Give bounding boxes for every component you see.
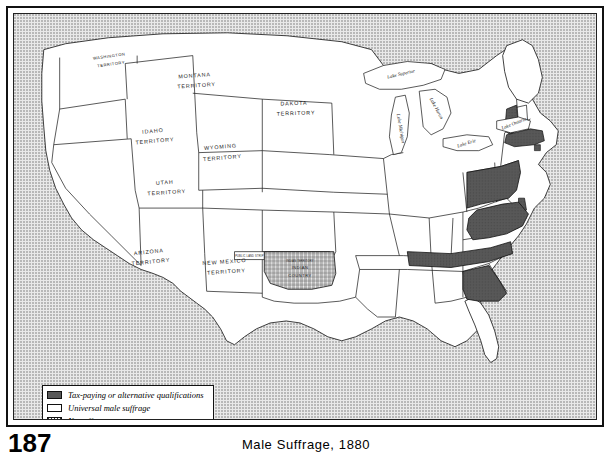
united-states-map: WASHINGTON TERRITORY MONTANA TERRITORY I… — [14, 14, 596, 419]
map-frame: WASHINGTON TERRITORY MONTANA TERRITORY I… — [6, 6, 604, 427]
label-public-land-strip: PUBLIC LAND STRIP — [235, 254, 264, 258]
map-legend: Tax-paying or alternative qualifications… — [42, 385, 214, 420]
figure-title: Male Suffrage, 1880 — [0, 437, 612, 452]
legend-label-no-suffrage: No suffrage — [68, 416, 108, 420]
label-indian-territory-strip: INDIAN TERRITORY — [286, 259, 313, 263]
label-indian-country-line1: INDIAN — [292, 265, 309, 270]
state-georgia — [463, 266, 507, 302]
label-indian-country-line2: COUNTRY — [288, 273, 311, 278]
label-dakota-territory-line1: DAKOTA — [280, 100, 307, 107]
legend-item-universal: Universal male suffrage — [47, 402, 209, 414]
legend-label-tax-paying: Tax-paying or alternative qualifications — [68, 390, 203, 400]
label-utah-territory-line1: UTAH — [156, 179, 174, 186]
legend-item-tax-paying: Tax-paying or alternative qualifications — [47, 389, 209, 401]
state-rhode-island — [534, 145, 540, 151]
legend-item-no-suffrage: No suffrage — [47, 415, 209, 420]
legend-swatch-tax-paying — [47, 391, 62, 399]
map-canvas: WASHINGTON TERRITORY MONTANA TERRITORY I… — [13, 13, 597, 420]
legend-swatch-no-suffrage — [47, 417, 62, 420]
figure-male-suffrage-1880: WASHINGTON TERRITORY MONTANA TERRITORY I… — [0, 0, 612, 469]
legend-swatch-universal — [47, 404, 62, 412]
legend-label-universal: Universal male suffrage — [68, 403, 150, 413]
